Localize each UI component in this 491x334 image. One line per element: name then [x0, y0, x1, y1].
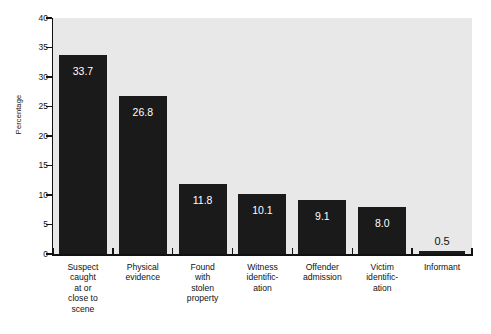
- y-axis-tick-label: 15: [26, 161, 48, 170]
- y-axis-tick-mark: [46, 106, 52, 107]
- x-axis-category-label-line: Physical: [113, 262, 173, 272]
- y-axis-tick-label: 25: [26, 102, 48, 111]
- x-axis-category-label: Informant: [412, 262, 472, 272]
- x-axis-category-label-line: Informant: [412, 262, 472, 272]
- y-axis-tick-mark: [46, 165, 52, 166]
- x-axis-category-label: Offenderadmission: [292, 262, 352, 283]
- bar: [298, 200, 346, 254]
- x-axis-category-labels: Suspectcaughtat orclose toscenePhysicale…: [53, 262, 472, 332]
- x-axis-category-label-line: scene: [53, 304, 113, 314]
- bar-value-label: 33.7: [73, 66, 93, 77]
- y-axis-tick-mark: [46, 253, 52, 254]
- y-axis-tick-mark: [46, 194, 52, 195]
- y-axis-tick-mark: [46, 17, 52, 18]
- y-axis-tick-label: 10: [26, 191, 48, 200]
- x-axis-category-label: Victimidentific-ation: [352, 262, 412, 293]
- bar-group: 9.1: [292, 18, 352, 254]
- x-axis-category-label: Suspectcaughtat orclose toscene: [53, 262, 113, 314]
- x-axis-tick-mark: [112, 248, 113, 254]
- y-axis-tick-mark: [46, 76, 52, 77]
- y-axis-tick-label: 5: [26, 220, 48, 229]
- y-axis-tick-mark: [46, 224, 52, 225]
- x-axis-category-label-line: identific-: [233, 272, 293, 282]
- bar-group: 0.5: [412, 18, 472, 254]
- y-axis-tick-label: 20: [26, 132, 48, 141]
- y-axis-tick-label: 30: [26, 73, 48, 82]
- y-axis-tick-label: 40: [26, 14, 48, 23]
- y-axis-tick-mark: [46, 47, 52, 48]
- x-axis-category-label-line: Victim: [352, 262, 412, 272]
- x-axis-category-label: Witnessidentific-ation: [233, 262, 293, 293]
- x-axis-category-label-line: stolen: [173, 283, 233, 293]
- bar-group: 8.0: [352, 18, 412, 254]
- x-axis-category-label-line: close to: [53, 293, 113, 303]
- y-axis-title: Percentage: [14, 75, 23, 155]
- bar-value-label: 9.1: [315, 211, 330, 222]
- x-axis-category-label-line: evidence: [113, 272, 173, 282]
- x-axis-category-label-line: ation: [233, 283, 293, 293]
- x-axis-category-label: Foundwithstolenproperty: [173, 262, 233, 304]
- x-axis-category-label-line: property: [173, 293, 233, 303]
- bar-value-label: 0.5: [434, 236, 449, 247]
- x-axis-tick-mark: [232, 248, 233, 254]
- y-axis-tick-mark: [46, 135, 52, 136]
- x-axis-tick-mark: [172, 248, 173, 254]
- y-axis-tick-labels: 0510152025303540: [24, 0, 48, 334]
- x-axis-category-label: Physicalevidence: [113, 262, 173, 283]
- x-axis-category-label-line: Offender: [292, 262, 352, 272]
- x-axis-category-label-line: caught: [53, 272, 113, 282]
- y-axis-tick-label: 0: [26, 250, 48, 259]
- bar: [119, 96, 167, 254]
- x-axis-tick-mark: [52, 248, 53, 254]
- bar-value-label: 8.0: [375, 218, 390, 229]
- x-axis-category-label-line: admission: [292, 272, 352, 282]
- x-axis-category-label-line: with: [173, 272, 233, 282]
- x-axis-category-label-line: Suspect: [53, 262, 113, 272]
- x-axis-tick-mark: [292, 248, 293, 254]
- bar-value-label: 11.8: [193, 195, 213, 206]
- bar: [59, 55, 107, 254]
- x-axis-line: [52, 254, 473, 256]
- bars-layer: 33.726.811.810.19.18.00.5: [53, 18, 472, 254]
- bar-group: 10.1: [233, 18, 293, 254]
- bar: [358, 207, 406, 254]
- bar-group: 33.7: [53, 18, 113, 254]
- bar-value-label: 10.1: [252, 205, 272, 216]
- y-axis-tick-label: 35: [26, 43, 48, 52]
- x-axis-category-label-line: Witness: [233, 262, 293, 272]
- x-axis-category-label-line: ation: [352, 283, 412, 293]
- bar-group: 11.8: [173, 18, 233, 254]
- x-axis-category-label-line: identific-: [352, 272, 412, 282]
- x-axis-tick-mark: [471, 248, 472, 254]
- bar-chart: Percentage 0510152025303540 33.726.811.8…: [0, 0, 491, 334]
- x-axis-category-label-line: at or: [53, 283, 113, 293]
- bar-group: 26.8: [113, 18, 173, 254]
- bar: [238, 194, 286, 254]
- x-axis-category-label-line: Found: [173, 262, 233, 272]
- x-axis-tick-mark: [352, 248, 353, 254]
- bar-value-label: 26.8: [133, 107, 153, 118]
- x-axis-tick-mark: [411, 248, 412, 254]
